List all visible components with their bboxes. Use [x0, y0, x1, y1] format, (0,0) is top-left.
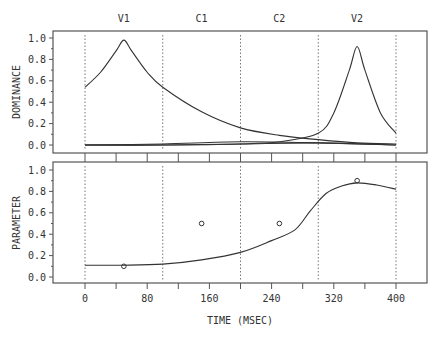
- y-tick-label: 0.4: [28, 97, 46, 108]
- chart-canvas: 0.00.20.40.60.81.0V1C1C2V2 0.00.20.40.60…: [0, 0, 441, 337]
- x-tick-label: 240: [263, 293, 281, 304]
- segment-label-v2: V2: [351, 13, 363, 24]
- y-tick-label: 0.0: [28, 140, 46, 151]
- y-tick-label: 0.6: [28, 207, 46, 218]
- x-tick-label: 320: [325, 293, 343, 304]
- target-marker: [199, 221, 204, 226]
- x-tick-label: 160: [200, 293, 218, 304]
- y-tick-label: 0.8: [28, 186, 46, 197]
- y-tick-label: 1.0: [28, 33, 46, 44]
- x-axis-label: TIME (MSEC): [207, 315, 273, 326]
- segment-label-v1: V1: [118, 13, 130, 24]
- y-tick-label: 1.0: [28, 165, 46, 176]
- x-tick-label: 80: [141, 293, 153, 304]
- x-tick-label: 400: [387, 293, 405, 304]
- y-tick-label: 0.2: [28, 118, 46, 129]
- segment-label-c2: C2: [273, 13, 285, 24]
- y-tick-label: 0.2: [28, 250, 46, 261]
- target-marker: [277, 221, 282, 226]
- y-axis-label-parameter: PARAMETER: [11, 195, 22, 250]
- segment-label-c1: C1: [196, 13, 208, 24]
- y-tick-label: 0.0: [28, 272, 46, 283]
- bottom-panel: 0.00.20.40.60.81.0080160240320400: [28, 162, 427, 304]
- y-tick-label: 0.8: [28, 54, 46, 65]
- y-tick-label: 0.4: [28, 229, 46, 240]
- y-axis-label-dominance: DOMINANCE: [11, 65, 22, 119]
- top-panel: 0.00.20.40.60.81.0V1C1C2V2: [28, 13, 427, 153]
- y-tick-label: 0.6: [28, 75, 46, 86]
- x-tick-label: 0: [82, 293, 88, 304]
